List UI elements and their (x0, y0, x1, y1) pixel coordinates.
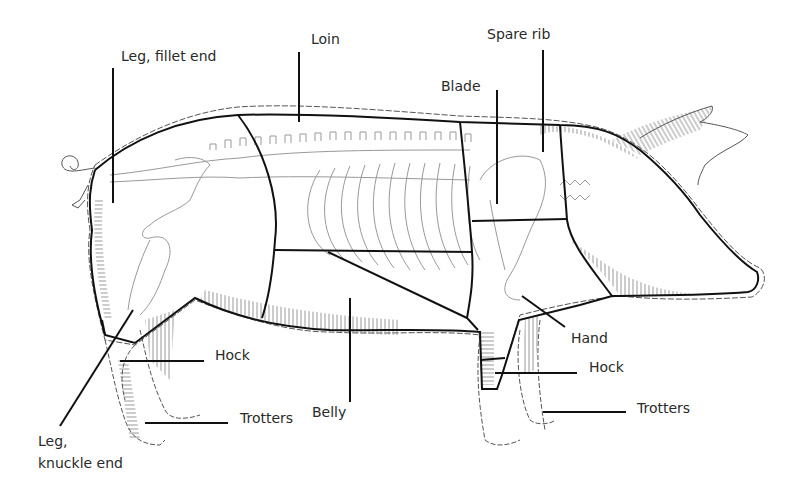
pig-cuts-diagram (0, 0, 793, 495)
label-trotters-rear: Trotters (240, 409, 293, 427)
label-leg-fillet-end: Leg, fillet end (121, 47, 216, 65)
label-spare-rib: Spare rib (487, 25, 550, 43)
label-hand: Hand (571, 329, 608, 347)
label-leg-knuckle-line2: knuckle end (38, 454, 123, 472)
skeleton (110, 132, 590, 315)
shading (94, 107, 713, 440)
label-trotters-front: Trotters (637, 399, 690, 417)
tail-tuft (72, 185, 88, 208)
label-leg-knuckle-line1: Leg, (38, 432, 68, 450)
label-loin: Loin (311, 30, 340, 48)
cut-lines (90, 114, 758, 389)
label-hock-rear: Hock (215, 346, 250, 364)
label-belly: Belly (312, 403, 346, 421)
label-hock-front: Hock (589, 358, 624, 376)
tail (62, 156, 95, 171)
label-blade: Blade (441, 77, 481, 95)
pig-outline (88, 106, 765, 389)
